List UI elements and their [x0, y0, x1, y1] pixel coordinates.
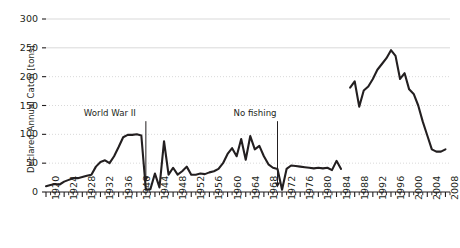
x-axis-tick-label-1992: 1992 [377, 176, 388, 200]
x-axis-tick-label-1964: 1964 [250, 176, 261, 200]
x-axis-tick-label-2008: 2008 [449, 176, 460, 200]
x-axis-tick-label-1924: 1924 [68, 176, 79, 200]
x-axis-tick-label-1976: 1976 [304, 176, 315, 200]
y-axis-tick-label-300: 300 [4, 13, 38, 24]
x-axis-tick-label-1960: 1960 [232, 176, 243, 200]
x-axis-tick-label-1920: 1920 [50, 176, 61, 200]
x-axis-tick-label-1952: 1952 [195, 176, 206, 200]
y-axis-tick-label-100: 100 [4, 128, 38, 139]
x-axis-tick-label-1956: 1956 [213, 176, 224, 200]
y-axis-tick-label-150: 150 [4, 100, 38, 111]
annotation-label-no-fishing: No fishing [234, 108, 277, 118]
annotation-label-world-war-ii: World War II [84, 108, 136, 118]
x-axis-tick-label-1996: 1996 [395, 176, 406, 200]
x-axis-tick-label-1972: 1972 [286, 176, 297, 200]
x-axis-tick-label-1984: 1984 [341, 176, 352, 200]
x-axis-tick-label-1944: 1944 [159, 176, 170, 200]
x-axis-tick-label-1980: 1980 [322, 176, 333, 200]
x-axis-tick-label-2004: 2004 [431, 176, 442, 200]
y-axis-tick-label-200: 200 [4, 71, 38, 82]
x-axis-tick-label-1936: 1936 [123, 176, 134, 200]
x-axis-tick-label-1928: 1928 [86, 176, 97, 200]
y-axis-tick-label-50: 50 [4, 157, 38, 168]
x-axis-tick-label-1968: 1968 [268, 176, 279, 200]
y-axis-tick-label-0: 0 [4, 186, 38, 197]
y-axis-tick-label-250: 250 [4, 42, 38, 53]
x-axis-tick-label-1940: 1940 [141, 176, 152, 200]
data-line [350, 50, 445, 151]
x-axis-tick-label-2000: 2000 [413, 176, 424, 200]
x-axis-tick-label-1948: 1948 [177, 176, 188, 200]
x-axis-tick-label-1988: 1988 [359, 176, 370, 200]
x-axis-tick-label-1932: 1932 [104, 176, 115, 200]
